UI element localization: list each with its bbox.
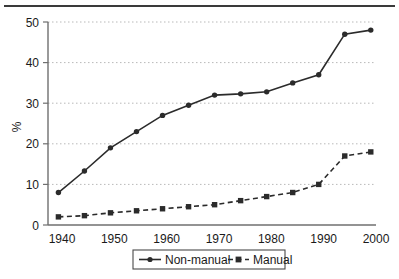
circle-marker-icon [186, 103, 191, 108]
y-axis-tick-labels: 50 40 30 20 10 0 [26, 16, 40, 233]
square-marker-icon [236, 257, 242, 263]
square-marker-icon [186, 204, 191, 209]
circle-marker-icon [342, 31, 347, 36]
circle-marker-icon [290, 80, 295, 85]
y-axis-ticks [43, 22, 48, 225]
x-axis-tick-labels: 1940 1950 1960 1970 1980 1990 2000 [49, 232, 390, 246]
circle-marker-icon [212, 92, 217, 97]
circle-marker-icon [368, 27, 373, 32]
square-marker-icon [342, 153, 347, 158]
series-markers-non-manual [56, 27, 374, 195]
square-marker-icon [316, 182, 321, 187]
x-tick-label-2000: 2000 [363, 232, 390, 246]
figure-container: 50 40 30 20 10 0 % 1940 1950 1960 1970 1… [0, 0, 399, 279]
circle-marker-icon [238, 91, 243, 96]
y-axis-title: % [10, 121, 24, 132]
square-marker-icon [264, 194, 269, 199]
legend: Non-manual Manual [133, 250, 292, 269]
square-marker-icon [368, 149, 373, 154]
x-tick-label-1980: 1980 [258, 232, 285, 246]
x-tick-label-1940: 1940 [49, 232, 76, 246]
series-line-non-manual [58, 30, 370, 192]
circle-marker-icon [160, 113, 165, 118]
circle-marker-icon [264, 89, 269, 94]
y-tick-label-0: 0 [32, 219, 39, 233]
circle-marker-icon [56, 190, 61, 195]
square-marker-icon [212, 202, 217, 207]
y-tick-label-20: 20 [26, 137, 40, 151]
y-tick-label-30: 30 [26, 97, 40, 111]
square-marker-icon [134, 208, 139, 213]
square-marker-icon [108, 210, 113, 215]
line-chart: 50 40 30 20 10 0 % 1940 1950 1960 1970 1… [0, 0, 399, 279]
circle-marker-icon [82, 168, 87, 173]
axis-lines [48, 22, 376, 225]
series-markers-manual [56, 149, 374, 219]
circle-marker-icon [108, 145, 113, 150]
series-group [56, 27, 374, 219]
square-marker-icon [56, 214, 61, 219]
legend-label-non-manual: Non-manual [165, 253, 230, 267]
circle-marker-icon [316, 72, 321, 77]
square-marker-icon [238, 198, 243, 203]
y-tick-label-10: 10 [26, 178, 40, 192]
x-tick-label-1950: 1950 [101, 232, 128, 246]
x-tick-label-1970: 1970 [206, 232, 233, 246]
square-marker-icon [290, 190, 295, 195]
circle-marker-icon [147, 257, 152, 262]
square-marker-icon [160, 206, 165, 211]
y-tick-label-50: 50 [26, 16, 40, 30]
circle-marker-icon [134, 129, 139, 134]
y-tick-label-40: 40 [26, 56, 40, 70]
x-tick-label-1960: 1960 [153, 232, 180, 246]
square-marker-icon [82, 213, 87, 218]
x-tick-label-1990: 1990 [310, 232, 337, 246]
legend-label-manual: Manual [253, 253, 292, 267]
